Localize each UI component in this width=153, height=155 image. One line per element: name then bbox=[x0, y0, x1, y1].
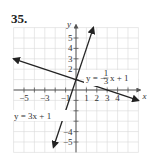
x-tick-label: −3 bbox=[40, 93, 50, 103]
x-axis-label: x bbox=[141, 91, 146, 101]
y-tick-label: −5 bbox=[63, 137, 73, 147]
equation-label-shallow-suffix: x + 1 bbox=[110, 73, 129, 83]
y-axis-label: y bbox=[66, 19, 71, 29]
y-tick-label: −4 bbox=[63, 127, 73, 137]
y-tick-label: 4 bbox=[68, 43, 73, 53]
line-y-equals-3x-plus-1 bbox=[53, 28, 93, 148]
x-tick-label: 3 bbox=[105, 93, 110, 103]
x-tick-label: −5 bbox=[19, 93, 29, 103]
equation-label-steep: y = 3x + 1 bbox=[14, 111, 51, 121]
y-tick-label: 2 bbox=[68, 64, 73, 74]
equation-label-shallow-prefix: y = − bbox=[86, 73, 105, 83]
x-tick-label: 2 bbox=[95, 93, 100, 103]
x-tick-label: 1 bbox=[84, 93, 89, 103]
y-tick-label: 3 bbox=[68, 54, 73, 64]
y-tick-label: 5 bbox=[68, 33, 73, 43]
coordinate-plane-chart: xy −5−3−112345432−4−5 y = 3x + 1y = −13x… bbox=[0, 0, 153, 155]
fraction-denominator: 3 bbox=[104, 76, 109, 86]
